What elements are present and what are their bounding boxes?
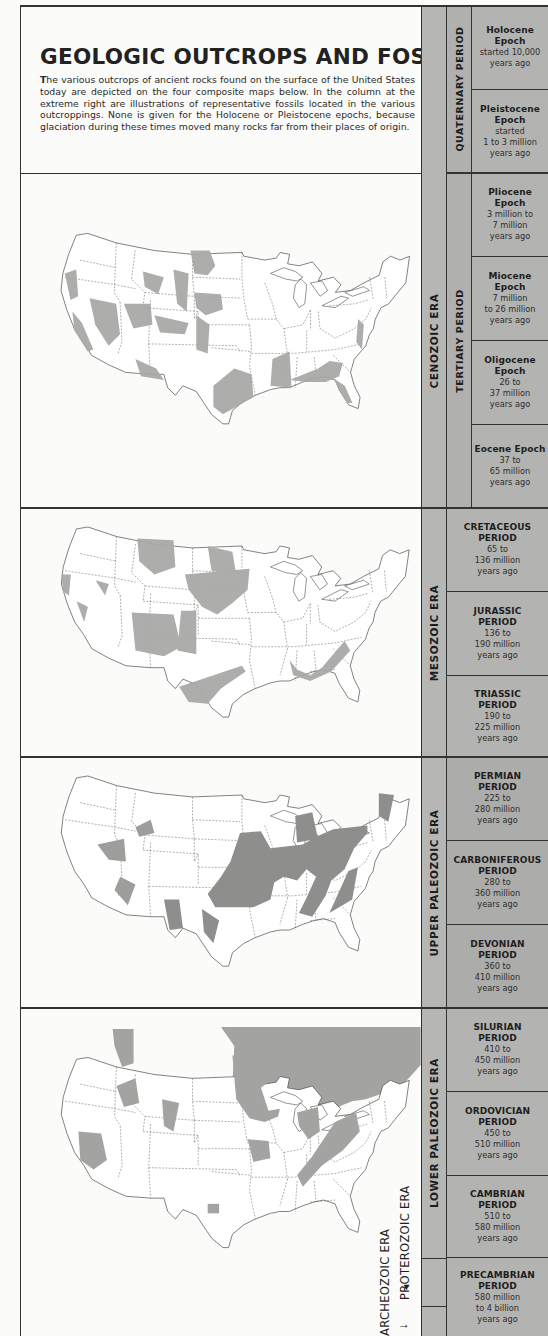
era-label: CENOZOIC ERA [428, 293, 440, 388]
upper-paleozoic-map [21, 757, 421, 1008]
era-cell-quaternary-blank [421, 5, 447, 173]
unit-date: 190 to [484, 711, 510, 722]
era-upper-paleozoic: UPPER PALEOZOIC ERA [421, 757, 447, 1008]
unit-date: years ago [490, 58, 530, 69]
unit-date: years ago [477, 650, 517, 661]
unit-name: Eocene Epoch [474, 444, 545, 455]
unit-name: CRETACEOUS PERIOD [458, 522, 538, 544]
unit-date: 65 to [487, 544, 508, 555]
period-tertiary: TERTIARY PERIOD [447, 173, 472, 508]
unit-date: years ago [477, 983, 517, 994]
unit-date: 410 to [484, 1044, 510, 1055]
era-lower-paleozoic: LOWER PALEOZOIC ERA [421, 1008, 447, 1258]
unit-date: years ago [490, 399, 530, 410]
era-divider [20, 507, 548, 509]
period-carboniferous: CARBONIFEROUS PERIOD 280 to 360 million … [447, 841, 548, 925]
unit-date: years ago [490, 231, 530, 242]
era-divider [20, 756, 548, 758]
unit-date: 37 million [490, 388, 530, 399]
unit-date: 450 million [475, 1055, 521, 1066]
unit-name: JURASSIC PERIOD [463, 606, 533, 628]
unit-date: started [495, 126, 524, 137]
unit-name: Oligocene Epoch [474, 355, 546, 377]
unit-date: 26 to [499, 377, 520, 388]
archeozoic-era-label: ARCHEOZOIC ERA [378, 1229, 392, 1336]
unit-date: 3 million to [487, 209, 533, 220]
unit-date: 280 million [475, 804, 521, 815]
unit-name: ORDOVICIAN PERIOD [458, 1106, 538, 1128]
unit-date: 1 to 3 million [483, 137, 537, 148]
unit-date: years ago [477, 1314, 517, 1325]
era-cenozoic: CENOZOIC ERA [421, 173, 447, 508]
unit-date: 37 to [499, 455, 520, 466]
unit-date: 225 to [484, 793, 510, 804]
description: The various outcrops of ancient rocks fo… [40, 74, 415, 133]
top-border [20, 5, 548, 7]
era-archeozoic-cell [421, 1306, 447, 1336]
unit-date: 510 to [484, 1211, 510, 1222]
unit-date: 225 million [475, 722, 521, 733]
period-permian: PERMIAN PERIOD 225 to 280 million years … [447, 757, 548, 841]
unit-date: 450 to [484, 1128, 510, 1139]
period-jurassic: JURASSIC PERIOD 136 to 190 million years… [447, 592, 548, 676]
period-triassic: TRIASSIC PERIOD 190 to 225 million years… [447, 676, 548, 757]
period-label: QUATERNARY PERIOD [454, 26, 465, 151]
era-label: MESOZOIC ERA [428, 584, 440, 681]
era-label: LOWER PALEOZOIC ERA [428, 1058, 440, 1208]
unit-date: years ago [477, 899, 517, 910]
us-map-cenozoic [21, 174, 421, 508]
proterozoic-arrow-icon: ▼ [402, 1282, 411, 1292]
unit-name: CAMBRIAN PERIOD [463, 1189, 533, 1211]
cenozoic-map [21, 174, 421, 508]
unit-name: Holocene Epoch [474, 25, 546, 47]
unit-date: 580 million [475, 1292, 521, 1303]
era-label: UPPER PALEOZOIC ERA [428, 809, 440, 956]
period-cambrian: CAMBRIAN PERIOD 510 to 580 million years… [447, 1176, 548, 1258]
unit-date: years ago [490, 477, 530, 488]
unit-date: 360 million [475, 888, 521, 899]
unit-date: to 4 billion [476, 1303, 519, 1314]
unit-date: 7 million [492, 220, 527, 231]
epoch-holocene: Holocene Epoch started 10,000 years ago [472, 5, 548, 90]
unit-date: 136 million [475, 555, 521, 566]
unit-name: Pleistocene Epoch [474, 104, 546, 126]
period-label: TERTIARY PERIOD [454, 289, 465, 392]
unit-date: started 10,000 [480, 47, 541, 58]
unit-name: Pliocene Epoch [474, 187, 546, 209]
epoch-oligocene: Oligocene Epoch 26 to 37 million years a… [472, 341, 548, 425]
unit-date: years ago [477, 566, 517, 577]
unit-name: DEVONIAN PERIOD [463, 939, 533, 961]
us-map-upper-paleozoic [21, 757, 421, 1008]
unit-date: years ago [490, 315, 530, 326]
unit-name: TRIASSIC PERIOD [463, 689, 533, 711]
period-silurian: SILURIAN PERIOD 410 to 450 million years… [447, 1008, 548, 1092]
unit-date: 65 million [490, 466, 530, 477]
unit-date: years ago [490, 148, 530, 159]
unit-date: 580 million [475, 1222, 521, 1233]
unit-date: 280 to [484, 877, 510, 888]
epoch-eocene: Eocene Epoch 37 to 65 million years ago [472, 425, 548, 508]
period-quaternary: QUATERNARY PERIOD [447, 5, 472, 173]
unit-name: PERMIAN PERIOD [463, 771, 533, 793]
intro-panel: GEOLOGIC OUTCROPS AND FOSSILS The variou… [21, 6, 421, 174]
era-divider [20, 1007, 548, 1009]
page-title: GEOLOGIC OUTCROPS AND FOSSILS [40, 44, 479, 69]
unit-name: PRECAMBRIAN PERIOD [453, 1270, 543, 1292]
unit-date: years ago [477, 815, 517, 826]
unit-date: years ago [477, 733, 517, 744]
archeozoic-arrow-icon: → [398, 1317, 410, 1331]
unit-date: 136 to [484, 628, 510, 639]
unit-date: 360 to [484, 961, 510, 972]
unit-date: years ago [477, 1233, 517, 1244]
epoch-miocene: Miocene Epoch 7 million to 26 million ye… [472, 257, 548, 341]
period-ordovician: ORDOVICIAN PERIOD 450 to 510 million yea… [447, 1092, 548, 1176]
unit-date: years ago [477, 1150, 517, 1161]
period-cretaceous: CRETACEOUS PERIOD 65 to 136 million year… [447, 508, 548, 592]
unit-date: to 26 million [484, 304, 535, 315]
era-proterozoic-cell [421, 1258, 447, 1308]
unit-date: 190 million [475, 639, 521, 650]
epoch-pliocene: Pliocene Epoch 3 million to 7 million ye… [472, 173, 548, 257]
unit-date: 7 million [492, 293, 527, 304]
mesozoic-map [21, 508, 421, 757]
period-devonian: DEVONIAN PERIOD 360 to 410 million years… [447, 925, 548, 1008]
